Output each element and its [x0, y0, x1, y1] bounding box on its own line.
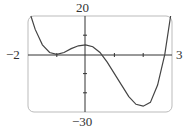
plot-frame: [28, 16, 172, 112]
axis-ticks: [57, 35, 143, 93]
chart-canvas: [0, 0, 188, 132]
y-max-label: 20: [76, 0, 89, 16]
function-curve: [31, 16, 171, 106]
y-min-label: −30: [72, 114, 92, 130]
x-max-label: 3: [176, 47, 183, 63]
x-min-label: −2: [6, 47, 20, 63]
